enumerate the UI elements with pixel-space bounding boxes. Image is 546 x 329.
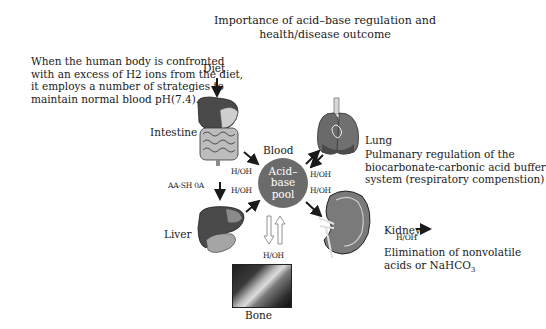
lung-desc-line-2: biocarbonate-carbonic acid buffer bbox=[365, 161, 546, 174]
lung-description: Pulmanary regulation of the biocarbonate… bbox=[365, 148, 546, 186]
bone-label: Bone bbox=[245, 309, 272, 321]
pool-line-3: pool bbox=[258, 189, 308, 201]
lung-icon bbox=[318, 98, 359, 155]
intestine-icon bbox=[198, 97, 238, 166]
kidney-desc-line-2: acids or NaHCO3 bbox=[384, 259, 521, 277]
kidney-description: Elimination of nonvolatile acids or NaHC… bbox=[384, 246, 521, 276]
intestine-to-blood-arrow bbox=[244, 152, 258, 164]
kidney-icon bbox=[318, 191, 370, 258]
bone-blood-exchange-arrows bbox=[264, 216, 285, 244]
intestine-label: Intestine bbox=[150, 126, 197, 138]
lung-blood-arrow-label: H/OH bbox=[310, 170, 331, 179]
acid-base-pool: Acid– base pool bbox=[258, 158, 308, 208]
diet-label: Diet bbox=[203, 62, 225, 74]
liver-to-blood-arrow bbox=[246, 201, 259, 212]
kidney-desc-line-1: Elimination of nonvolatile bbox=[384, 246, 521, 259]
bone-blood-arrow-label: H/OH bbox=[263, 251, 284, 260]
intestine-blood-arrow-label: H/OH bbox=[231, 167, 252, 176]
intestine-liver-arrow-label: AA-SH 0A bbox=[168, 181, 204, 190]
lung-label: Lung bbox=[365, 134, 392, 146]
liver-blood-arrow-label: H/OH bbox=[231, 186, 252, 195]
blood-to-kidney-arrow bbox=[306, 202, 321, 216]
liver-icon bbox=[198, 207, 244, 253]
blood-label: Blood bbox=[263, 144, 293, 156]
lung-desc-line-1: Pulmanary regulation of the bbox=[365, 148, 546, 161]
kidney-out-arrow-label: H/OH bbox=[396, 233, 417, 242]
liver-label: Liver bbox=[164, 228, 192, 240]
lung-desc-line-3: system (respiratory compenstion) bbox=[365, 173, 546, 186]
kidney-desc-subscript: 3 bbox=[471, 266, 475, 274]
kidney-desc-line-2-text: acids or NaHCO bbox=[384, 259, 471, 271]
blood-kidney-arrow-label: H/OH bbox=[310, 186, 331, 195]
bone-xray-image bbox=[232, 264, 292, 308]
